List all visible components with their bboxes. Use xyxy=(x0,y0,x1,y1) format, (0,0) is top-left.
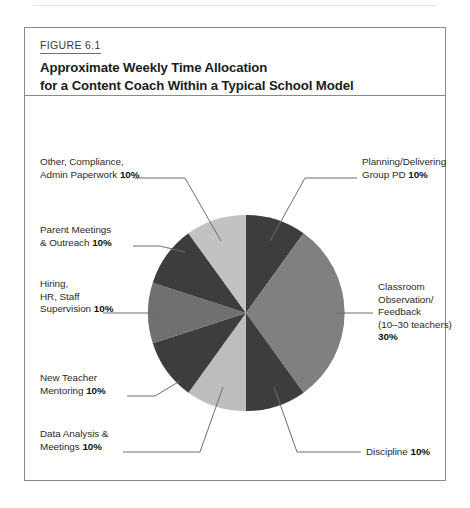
callout-data-analysis-line-1: Data Analysis & xyxy=(40,428,108,441)
callout-classroom-pct: 30% xyxy=(378,331,452,344)
figure-number: FIGURE 6.1 xyxy=(40,39,101,54)
leader-line-mentoring xyxy=(127,381,180,396)
callout-data-analysis-pct: 10% xyxy=(82,441,102,452)
callout-discipline: Discipline 10% xyxy=(366,446,430,459)
pie-chart-area: Other, Compliance, Admin Paperwork 10% P… xyxy=(25,96,445,480)
callout-other-line-1: Other, Compliance, xyxy=(40,156,140,169)
figure-header: FIGURE 6.1 Approximate Weekly Time Alloc… xyxy=(25,28,445,96)
callout-mentoring-text: Mentoring xyxy=(40,385,86,396)
callout-classroom-pct-value: 30% xyxy=(378,331,398,342)
callout-classroom: Classroom Observation/ Feedback (10–30 t… xyxy=(378,281,452,344)
callout-mentoring: New Teacher Mentoring 10% xyxy=(40,372,106,397)
callout-parent-line-2: & Outreach 10% xyxy=(40,237,112,250)
callout-mentoring-line-1: New Teacher xyxy=(40,372,106,385)
callout-hiring: Hiring, HR, Staff Supervision 10% xyxy=(40,278,113,316)
callout-parent-line-1: Parent Meetings xyxy=(40,224,112,237)
callout-discipline-line-1: Discipline 10% xyxy=(366,446,430,459)
page-rule xyxy=(33,5,437,6)
callout-planning: Planning/Delivering Group PD 10% xyxy=(362,156,446,181)
figure-title-line-2: for a Content Coach Within a Typical Sch… xyxy=(40,77,432,95)
callout-hiring-pct: 10% xyxy=(94,303,114,314)
callout-parent: Parent Meetings & Outreach 10% xyxy=(40,224,112,249)
callout-hiring-line-3: Supervision 10% xyxy=(40,303,113,316)
callout-hiring-line-1: Hiring, xyxy=(40,278,113,291)
callout-discipline-pct: 10% xyxy=(410,446,430,457)
figure-title: Approximate Weekly Time Allocation for a… xyxy=(40,59,432,94)
callout-planning-line-2: Group PD 10% xyxy=(362,169,446,182)
callout-other-pct: 10% xyxy=(120,169,140,180)
callout-other-line-2: Admin Paperwork 10% xyxy=(40,169,140,182)
callout-hiring-line-2: HR, Staff xyxy=(40,291,113,304)
callout-parent-text: & Outreach xyxy=(40,237,92,248)
figure-box: FIGURE 6.1 Approximate Weekly Time Alloc… xyxy=(24,27,446,481)
callout-planning-line-1: Planning/Delivering xyxy=(362,156,446,169)
callout-mentoring-line-2: Mentoring 10% xyxy=(40,385,106,398)
figure-title-line-1: Approximate Weekly Time Allocation xyxy=(40,59,432,77)
callout-hiring-text: Supervision xyxy=(40,303,94,314)
callout-classroom-line-4: (10–30 teachers) xyxy=(378,319,452,332)
callout-classroom-line-2: Observation/ xyxy=(378,294,452,307)
callout-data-analysis-line-2: Meetings 10% xyxy=(40,441,108,454)
callout-planning-pct: 10% xyxy=(408,169,428,180)
callout-classroom-line-1: Classroom xyxy=(378,281,452,294)
callout-discipline-text: Discipline xyxy=(366,446,410,457)
callout-data-analysis-text: Meetings xyxy=(40,441,82,452)
callout-parent-pct: 10% xyxy=(92,237,112,248)
callout-planning-text: Group PD xyxy=(362,169,408,180)
callout-other-text: Admin Paperwork xyxy=(40,169,120,180)
callout-data-analysis: Data Analysis & Meetings 10% xyxy=(40,428,108,453)
callout-classroom-line-3: Feedback xyxy=(378,306,452,319)
callout-other: Other, Compliance, Admin Paperwork 10% xyxy=(40,156,140,181)
callout-mentoring-pct: 10% xyxy=(86,385,106,396)
